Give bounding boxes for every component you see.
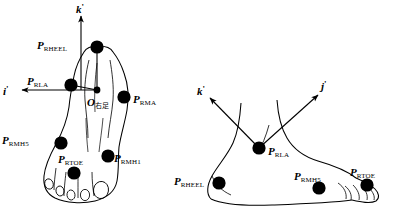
origin-label-left: O右足 [87,93,109,110]
foot-marker-diagram: k' i' PRHEEL PRLA PRMA PRMH5 PRMH1 PRTOE… [0,0,399,212]
marker-rmh5-dot [54,136,67,149]
label-sub: RMA [140,99,157,107]
label-sub: RMH1 [121,158,141,166]
k-axis-label-left: k' [76,2,84,15]
label-rtoe-left: PRTOE [58,150,83,167]
i-axis-label-left: i' [3,84,9,97]
label-sub: RTOE [65,159,84,167]
marker-rma-dot [117,90,130,103]
marker-rla-dot [64,78,77,91]
label-sub: RLA [34,81,49,89]
marker-rheel-dot [212,176,225,189]
label-rtoe-right: PRTOE [350,163,375,180]
label-rmh5-right: PRMH5 [294,167,321,184]
label-base: P [114,152,121,164]
j-axis-prime: ' [324,79,327,89]
right-foot-outline [208,100,379,205]
marker-rmh1-dot [101,149,114,162]
label-rla-left: PRLA [27,72,48,89]
label-base: P [174,175,181,187]
j-axis-label-right: j' [321,79,327,92]
origin-base: O [87,96,95,108]
marker-rtoe-dot [67,166,80,179]
k-axis-prime: ' [82,2,85,12]
label-base: P [294,170,301,182]
label-base: P [27,75,34,87]
label-rheel-left: PRHEEL [37,36,67,53]
label-base: P [133,93,140,105]
label-rmh5-left: PRMH5 [2,131,29,148]
label-sub: RTOE [357,172,376,180]
label-sub: RHEEL [181,181,205,189]
k-axis-label-right: k' [197,84,205,97]
label-rla-right: PRLA [268,142,289,159]
label-rmh1-left: PRMH1 [114,149,141,166]
label-base: P [2,134,9,146]
label-base: P [268,145,275,157]
label-sub: RMH5 [301,176,321,184]
k-axis-prime: ' [203,84,206,94]
marker-rtoe-dot [360,178,373,191]
label-sub: RHEEL [44,45,68,53]
marker-rheel-dot [90,40,103,53]
label-base: P [37,39,44,51]
label-rheel-right: PRHEEL [174,172,204,189]
label-base: P [58,153,65,165]
left-foot-outline [43,46,128,203]
i-axis-prime: ' [6,84,9,94]
marker-rla-dot [252,141,265,154]
label-rma-left: PRMA [133,90,156,107]
label-sub: RMH5 [9,140,29,148]
label-base: P [350,166,357,178]
origin-sub: 右足 [95,102,109,110]
label-sub: RLA [275,151,290,159]
